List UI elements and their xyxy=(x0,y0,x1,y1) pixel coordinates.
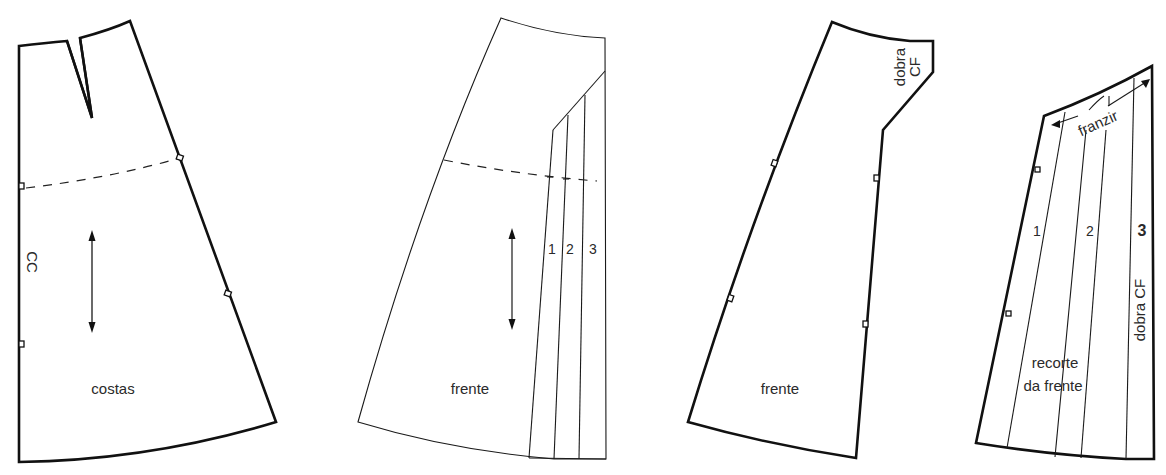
slash-label-1: 1 xyxy=(548,241,556,257)
notch-marker xyxy=(1006,311,1011,316)
slash-label-2: 2 xyxy=(1086,223,1094,239)
slash-label-3: 3 xyxy=(589,241,597,257)
notch-marker xyxy=(224,290,231,297)
piece-label: costas xyxy=(91,380,134,397)
piece-label-line1: recorte xyxy=(1032,354,1079,371)
pattern-diagram: CC costas 1 2 3 frente xyxy=(0,0,1166,475)
pattern-piece-costas: CC costas xyxy=(19,21,276,462)
grainline-arrow-icon xyxy=(509,228,516,330)
slash-line-3 xyxy=(1126,78,1134,459)
pattern-piece-frente-slashed: 1 2 3 frente xyxy=(358,18,606,459)
piece-label: frente xyxy=(761,380,799,397)
hip-line xyxy=(26,158,180,188)
fold-label-cf: CF xyxy=(906,57,923,77)
piece-outline xyxy=(688,22,933,458)
center-back-label: CC xyxy=(24,251,41,273)
dart xyxy=(67,38,92,118)
fold-label: dobra CF xyxy=(1131,279,1148,342)
gather-label: franzir xyxy=(1075,107,1120,139)
notch-marker xyxy=(727,294,734,301)
piece-label: frente xyxy=(451,380,489,397)
slash-line-1 xyxy=(529,130,553,458)
piece-hem-segment xyxy=(529,458,606,459)
notch-marker xyxy=(19,341,24,347)
pattern-piece-frente: dobra CF frente xyxy=(688,22,933,458)
notch-marker xyxy=(771,159,778,166)
slash-line-2a xyxy=(1055,130,1086,457)
hip-line xyxy=(444,160,597,181)
notch-marker xyxy=(1035,167,1040,172)
pattern-piece-recorte-da-frente: franzir 1 2 3 dobra CF recorte da frente xyxy=(976,66,1154,459)
notch-marker xyxy=(863,321,868,327)
slash-line-2 xyxy=(554,115,568,459)
piece-label-line2: da frente xyxy=(1023,377,1082,394)
piece-outline xyxy=(19,21,276,462)
slash-label-1: 1 xyxy=(1033,223,1041,239)
slash-label-2: 2 xyxy=(566,241,574,257)
slash-top-line xyxy=(553,71,605,130)
notch-marker xyxy=(176,154,183,161)
grainline-arrow-icon xyxy=(89,230,96,333)
notch-marker xyxy=(874,175,879,181)
notch-marker xyxy=(19,183,24,189)
slash-line-2b xyxy=(1081,130,1106,458)
slash-label-3: 3 xyxy=(1138,222,1147,239)
slash-line-3 xyxy=(579,95,585,459)
slash-line-1 xyxy=(1007,112,1065,448)
